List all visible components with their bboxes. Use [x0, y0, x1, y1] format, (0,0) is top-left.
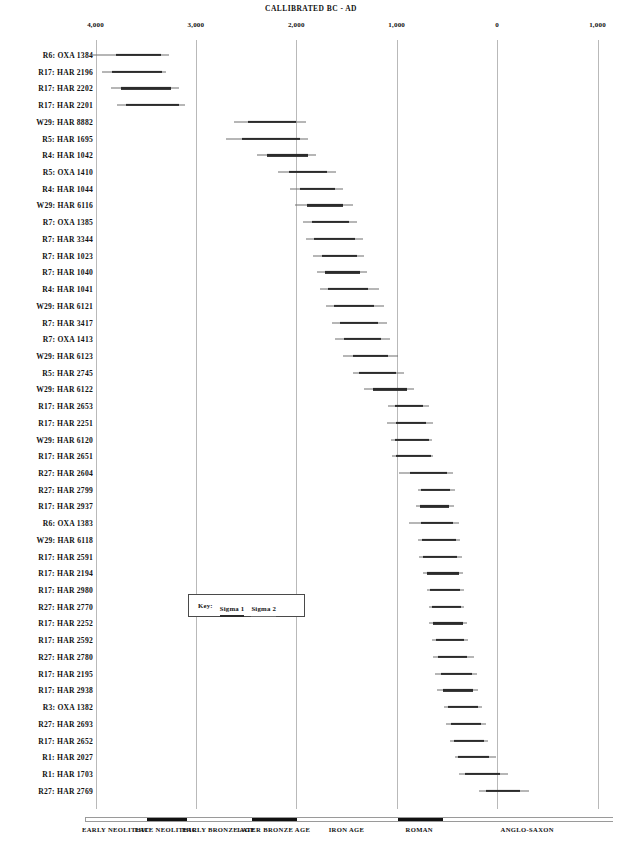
sigma-1-range-bar	[314, 238, 354, 240]
sample-label: R17: HAR 2652	[38, 736, 93, 745]
sigma-1-range-bar	[248, 121, 296, 123]
sample-label: W29: HAR 6122	[36, 385, 93, 394]
sample-label: R17: HAR 2202	[38, 84, 93, 93]
sample-label: W29: HAR 6118	[37, 535, 93, 544]
sigma-1-range-bar	[112, 71, 162, 73]
period-segment	[252, 818, 297, 821]
sigma-1-range-bar	[448, 706, 478, 708]
radiocarbon-chart: CALLIBRATED BC - AD 4,0003,0002,0001,000…	[0, 0, 622, 843]
sample-label-column: R6: OXA 1384R17: HAR 2196R17: HAR 2202R1…	[0, 0, 93, 843]
sigma-1-range-bar	[322, 255, 356, 257]
sigma-1-range-bar	[454, 739, 484, 741]
sigma-1-range-bar	[353, 355, 388, 357]
sample-label: R27: HAR 2770	[38, 602, 93, 611]
sigma-1-range-bar	[307, 204, 343, 206]
sample-label: R17: HAR 2980	[38, 586, 93, 595]
sigma-1-range-bar	[465, 773, 500, 775]
period-segment	[187, 818, 252, 821]
sample-label: R7: OXA 1385	[43, 218, 93, 227]
sample-label: R4: HAR 1042	[42, 151, 93, 160]
sigma-1-range-bar	[395, 438, 429, 440]
sigma-1-range-bar	[289, 171, 327, 173]
sigma-1-range-bar	[121, 87, 171, 89]
sigma-1-range-bar	[359, 372, 396, 374]
sigma-1-range-bar	[443, 689, 473, 691]
sample-label: R6: OXA 1383	[43, 519, 93, 528]
period-segment	[297, 818, 397, 821]
sample-label: R27: HAR 2780	[38, 652, 93, 661]
x-axis-tick-label: 2,000	[288, 21, 305, 29]
sigma-1-range-bar	[441, 673, 472, 675]
x-axis-tick-label: 1,000	[589, 21, 606, 29]
sample-label: R17: HAR 2938	[38, 686, 93, 695]
sigma-1-range-bar	[126, 104, 179, 106]
sample-label: R17: HAR 2653	[38, 402, 93, 411]
sigma-1-range-bar	[421, 522, 453, 524]
x-axis-tick-label: 1,000	[388, 21, 405, 29]
sigma-1-range-bar	[325, 271, 359, 273]
legend-entry-sigma-1: Sigma 1	[220, 597, 245, 615]
legend-swatch-sigma-2	[251, 616, 276, 617]
legend-key-box: Key: Sigma 1 Sigma 2	[188, 594, 305, 617]
x-axis-tick-label: 0	[495, 21, 499, 29]
period-axis-bar	[85, 817, 612, 822]
x-axis-tick-label: 3,000	[188, 21, 205, 29]
period-segment	[147, 818, 187, 821]
sample-label: R7: HAR 3344	[42, 234, 93, 243]
sample-label: R6: OXA 1384	[43, 51, 93, 60]
period-label: ANGLO-SAXON	[501, 826, 554, 833]
period-label: ROMAN	[406, 826, 433, 833]
sample-label: R17: HAR 2251	[38, 418, 93, 427]
legend-label-sigma-1: Sigma 1	[220, 605, 245, 612]
sample-label: R5: HAR 2745	[42, 368, 93, 377]
sigma-1-range-bar	[438, 656, 467, 658]
sigma-1-range-bar	[312, 221, 348, 223]
sample-label: R7: HAR 3417	[42, 318, 93, 327]
sigma-1-range-bar	[395, 405, 423, 407]
sigma-1-range-bar	[486, 790, 520, 792]
sigma-1-range-bar	[436, 639, 464, 641]
sample-label: R17: HAR 2196	[38, 67, 93, 76]
sample-label: R7: HAR 1023	[42, 251, 93, 260]
period-label: IRON AGE	[329, 826, 365, 833]
sample-label: R17: HAR 2194	[38, 569, 93, 578]
legend-label-sigma-2: Sigma 2	[251, 605, 276, 612]
sample-label: R4: HAR 1041	[42, 285, 93, 294]
sigma-1-range-bar	[373, 388, 407, 390]
sample-label: R7: HAR 1040	[42, 268, 93, 277]
sample-label: R27: HAR 2604	[38, 469, 93, 478]
gridline	[497, 40, 498, 809]
sigma-1-range-bar	[242, 138, 300, 140]
sigma-1-range-bar	[116, 54, 161, 56]
gridline	[96, 40, 97, 809]
sigma-1-range-bar	[423, 556, 457, 558]
period-segment	[443, 818, 614, 821]
period-segment	[86, 818, 146, 821]
gridline	[397, 40, 398, 809]
sigma-1-range-bar	[344, 338, 380, 340]
legend-title: Key:	[198, 602, 213, 609]
sample-label: R5: HAR 1695	[42, 134, 93, 143]
sigma-1-range-bar	[396, 455, 431, 457]
legend-entry-sigma-2: Sigma 2	[251, 597, 276, 615]
sigma-1-range-bar	[340, 321, 377, 323]
sigma-1-range-bar	[433, 622, 463, 624]
sigma-1-range-bar	[432, 606, 461, 608]
sample-label: R17: HAR 2195	[38, 669, 93, 678]
sample-label: R17: HAR 2591	[38, 552, 93, 561]
sample-label: R5: OXA 1410	[43, 168, 93, 177]
sample-label: R17: HAR 2252	[38, 619, 93, 628]
sample-label: R4: HAR 1044	[42, 184, 93, 193]
gridline	[196, 40, 197, 809]
period-segment	[398, 818, 443, 821]
period-label: LATER BRONZE AGE	[237, 826, 310, 833]
sample-label: W29: HAR 6123	[36, 351, 93, 360]
sample-label: R17: HAR 2651	[38, 452, 93, 461]
sigma-1-range-bar	[421, 489, 450, 491]
gridline	[598, 40, 599, 809]
sigma-1-range-bar	[300, 188, 335, 190]
legend-swatch-sigma-1	[220, 615, 245, 617]
sigma-1-range-bar	[410, 472, 447, 474]
sigma-1-range-bar	[334, 305, 373, 307]
sigma-1-range-bar	[427, 572, 459, 574]
